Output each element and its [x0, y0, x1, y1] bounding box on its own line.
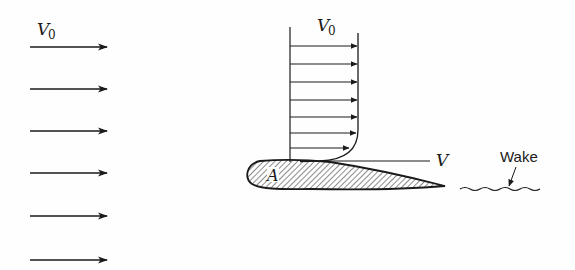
profile-arrows [290, 46, 357, 148]
boundary-layer-profile: V 0 [290, 15, 358, 162]
free-stream-label-sub: 0 [48, 28, 56, 42]
profile-label-sub: 0 [328, 24, 336, 38]
wake-label: Wake [500, 148, 538, 165]
wake-pointer-arrow-icon [509, 167, 516, 186]
wake: Wake [460, 148, 540, 191]
velocity-profile-curve [300, 33, 358, 162]
wake-wavy-line [460, 188, 540, 191]
free-stream-label: V 0 [37, 19, 56, 42]
free-stream-arrows [30, 47, 107, 260]
edge-velocity-label: V [436, 150, 450, 170]
point-a-label: A [265, 166, 279, 185]
airfoil-boundary-layer-diagram: V 0 V 0 V A Wake [0, 0, 575, 270]
